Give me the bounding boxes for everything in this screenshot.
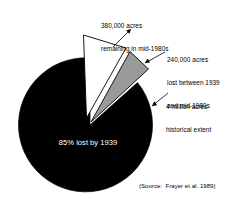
- label-remaining-line2: remaining in mid-1980s: [101, 45, 169, 53]
- label-lost-between-line2: lost between 1939: [167, 79, 220, 87]
- label-historical-line1: 4 million acres: [166, 103, 211, 111]
- label-remaining-mid-1980s: 380,000 acres remaining in mid-1980s: [101, 7, 169, 68]
- slice-label-lost-by-1939: 85% lost by 1939: [36, 138, 140, 147]
- pie-chart-figure: 380,000 acres remaining in mid-1980s 240…: [0, 0, 231, 220]
- label-remaining-line1: 380,000 acres: [101, 22, 169, 30]
- label-historical-line2: historical extent: [166, 126, 211, 134]
- label-lost-between-line1: 240,000 acres: [167, 56, 220, 64]
- source-citation: (Source: Frayer et al. 1989): [139, 183, 215, 191]
- label-historical-extent: 4 million acres historical extent: [166, 88, 211, 149]
